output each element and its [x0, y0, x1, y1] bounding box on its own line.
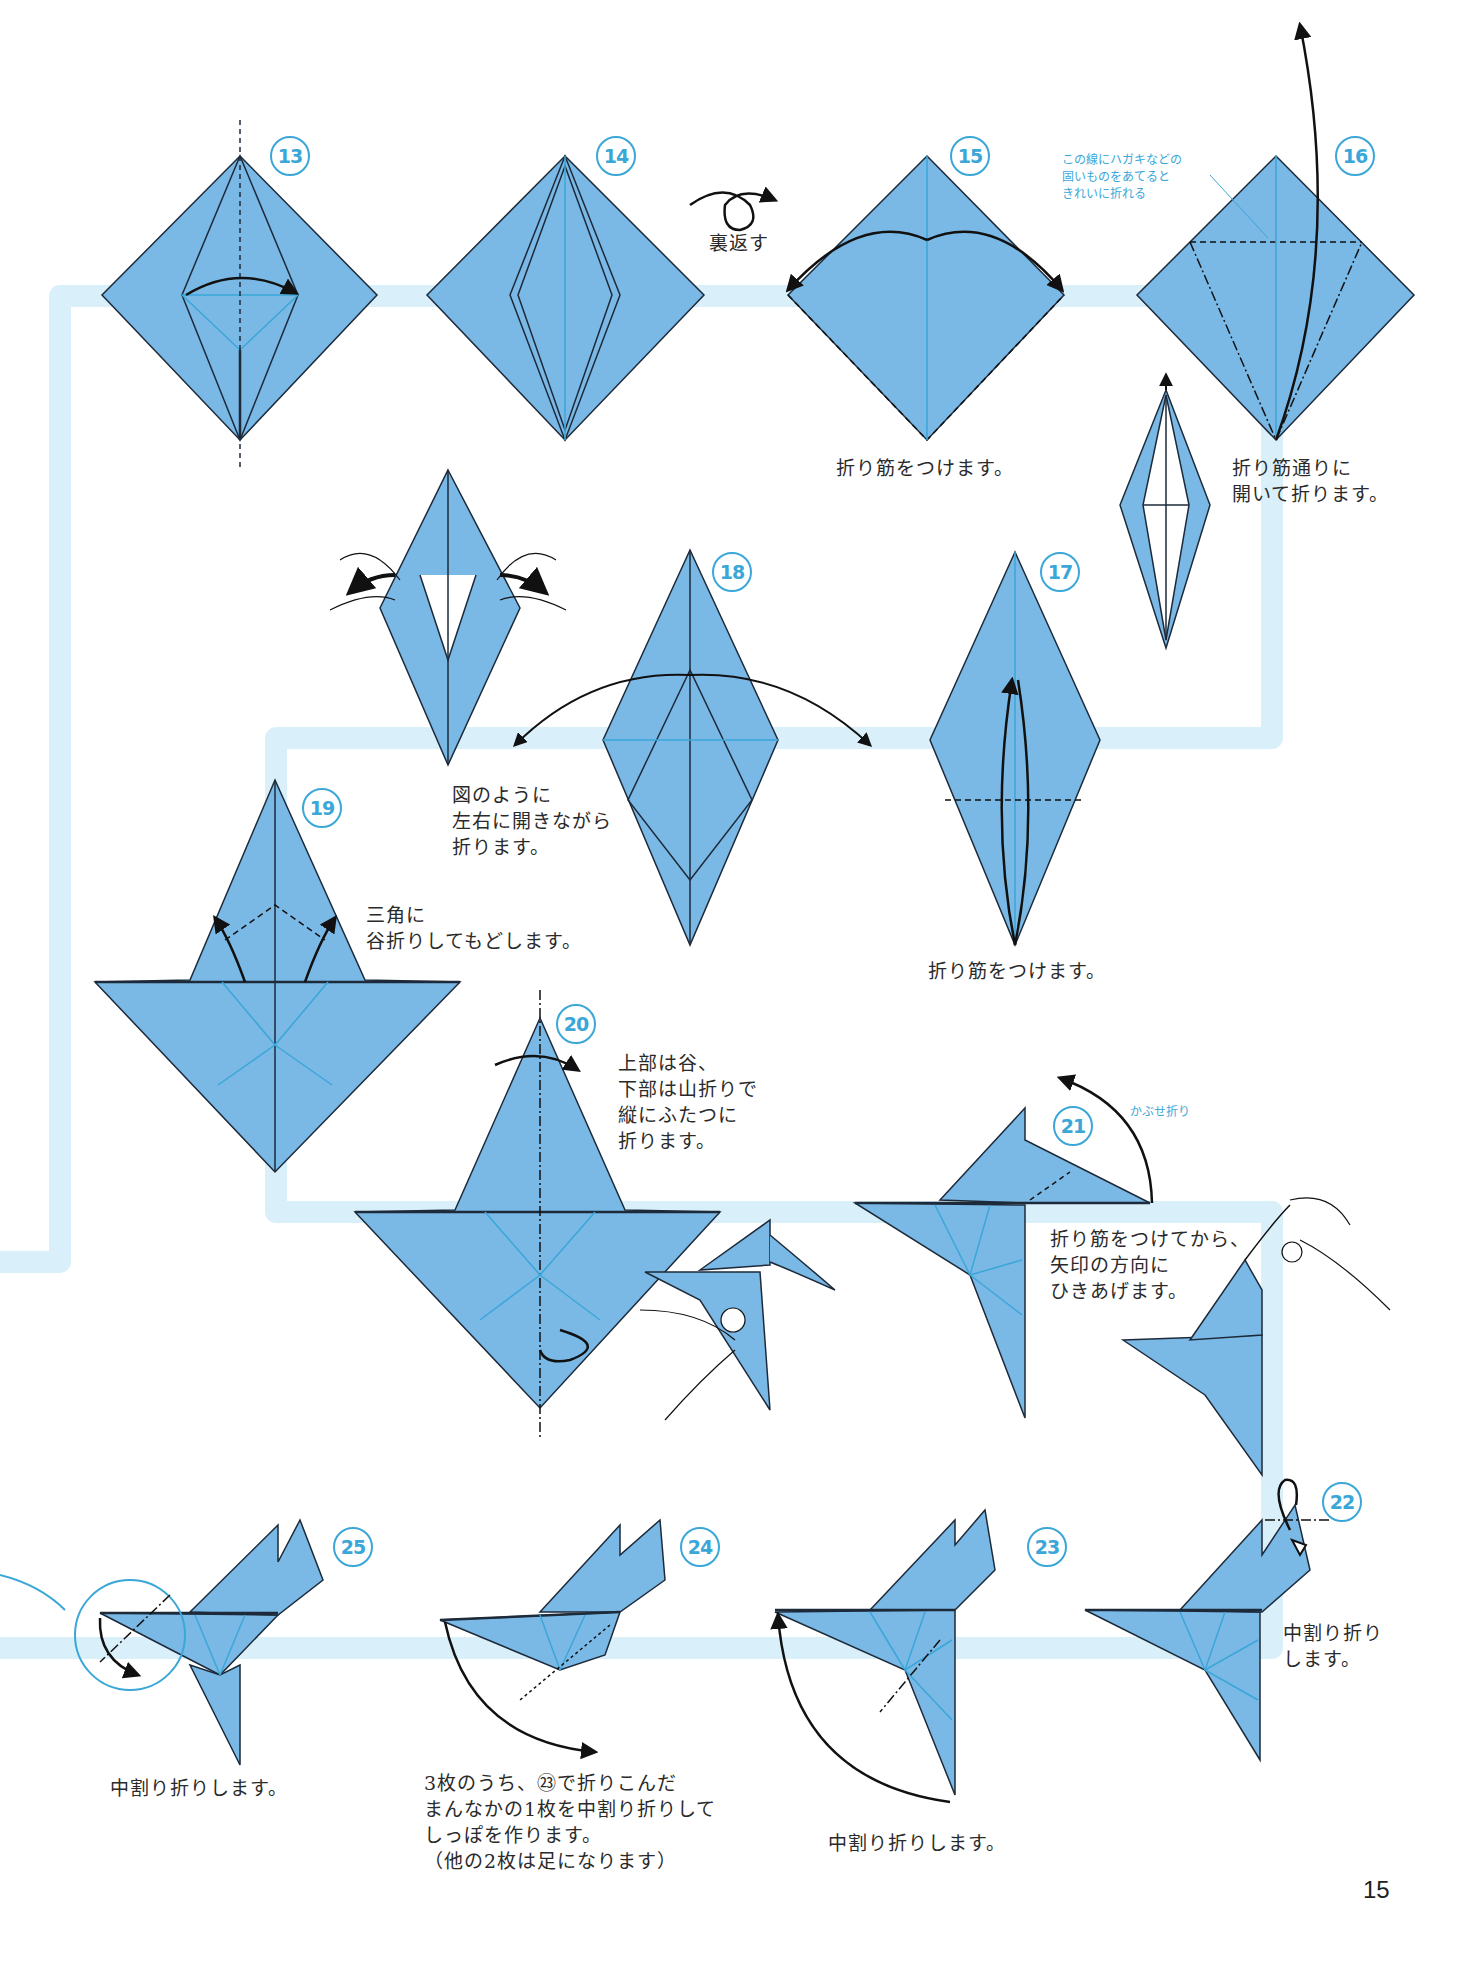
caption-step-19: 三角に 谷折りしてもどします。 [366, 902, 582, 954]
origami-diagram-canvas [0, 0, 1467, 1963]
diagram-step-19 [95, 780, 460, 1172]
step-number-17: 17 [1040, 552, 1080, 592]
turn-over-icon [690, 193, 775, 231]
caption-step-18: 図のように 左右に開きながら 折ります。 [452, 782, 612, 860]
diagram-step-14 [427, 156, 704, 440]
step-number-16: 16 [1335, 136, 1375, 176]
step-number-24: 24 [680, 1527, 720, 1567]
caption-step-21: 折り筋をつけてから、 矢印の方向に ひきあげます。 [1050, 1226, 1250, 1304]
diagram-step-17 [930, 552, 1100, 945]
turn-over-label: 裏返す [709, 230, 769, 256]
diagram-step-24 [440, 1520, 665, 1752]
diagram-step-18-hands [330, 470, 566, 765]
diagram-step-16-result [1120, 375, 1210, 648]
caption-step-16: 折り筋通りに 開いて折ります。 [1232, 455, 1389, 507]
step-number-15: 15 [950, 136, 990, 176]
step-number-23: 23 [1027, 1527, 1067, 1567]
page-number: 15 [1363, 1876, 1390, 1904]
caption-step-17: 折り筋をつけます。 [928, 958, 1106, 984]
diagram-step-15 [788, 156, 1064, 440]
step-number-20: 20 [556, 1004, 596, 1044]
note-step-16: この線にハガキなどの 固いものをあてると きれいに折れる [1062, 152, 1182, 203]
caption-step-24: 3枚のうち、㉓で折りこんだ まんなかの1枚を中割り折りして しっぽを作ります。 … [424, 1770, 716, 1874]
caption-step-25: 中割り折りします。 [110, 1775, 288, 1801]
diagram-step-13 [102, 120, 377, 470]
diagram-step-16 [1137, 25, 1414, 440]
caption-step-20: 上部は谷、 下部は山折りで 縦にふたつに 折ります。 [618, 1050, 758, 1154]
step-number-21: 21 [1053, 1106, 1093, 1146]
step-number-19: 19 [302, 788, 342, 828]
step-number-18: 18 [712, 552, 752, 592]
step-number-14: 14 [596, 136, 636, 176]
caption-step-15: 折り筋をつけます。 [836, 455, 1014, 481]
step-number-25: 25 [333, 1527, 373, 1567]
step-number-13: 13 [270, 136, 310, 176]
step-number-22: 22 [1322, 1482, 1362, 1522]
caption-step-23: 中割り折りします。 [828, 1830, 1006, 1856]
caption-step-22: 中割り折り します。 [1283, 1620, 1383, 1672]
note-step-21: かぶせ折り [1130, 1104, 1190, 1121]
